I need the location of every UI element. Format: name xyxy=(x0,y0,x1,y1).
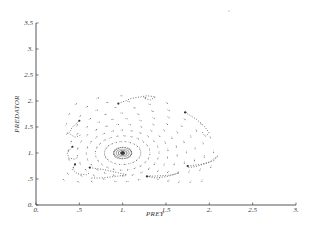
field-arrow-dot xyxy=(131,130,132,131)
field-arrow-dot xyxy=(178,171,179,172)
field-arrow-dot xyxy=(203,143,204,144)
field-arrow-dot xyxy=(204,155,205,156)
field-arrow-dot xyxy=(116,164,117,165)
equilibrium-spoke-dot xyxy=(114,153,115,154)
field-arrow-dot xyxy=(124,164,125,165)
field-arrow-dot xyxy=(168,171,169,172)
field-arrow-dot xyxy=(66,123,67,124)
field-arrow-dot xyxy=(106,158,107,159)
trajectory-traj-8 xyxy=(72,164,89,174)
field-arrow-dot xyxy=(176,131,177,132)
field-arrow-dot xyxy=(103,134,104,135)
field-arrow-dot xyxy=(122,112,123,113)
field-arrow-dot xyxy=(133,162,134,163)
field-arrow-dot xyxy=(213,152,214,153)
field-arrow-dot xyxy=(116,142,117,143)
equilibrium-spoke-dot xyxy=(130,150,131,151)
field-arrow-dot xyxy=(112,143,113,144)
field-arrow-dot xyxy=(99,144,100,145)
field-arrow-dot xyxy=(100,143,101,144)
field-arrow-dot xyxy=(121,95,122,96)
field-arrow-dot xyxy=(148,169,149,170)
equilibrium-spoke-dot xyxy=(118,156,119,157)
field-arrow-dot xyxy=(107,102,108,103)
field-arrow-dot xyxy=(210,167,211,168)
field-arrow-dot xyxy=(108,145,109,146)
field-arrow-dot xyxy=(150,104,151,105)
field-arrow-dot xyxy=(138,138,139,139)
field-arrow-dot xyxy=(183,140,184,141)
field-arrow-dot xyxy=(87,126,88,127)
trajectory-traj-3 xyxy=(188,156,218,168)
equilibrium-spoke-dot xyxy=(127,148,128,149)
field-arrow-dot xyxy=(136,160,137,161)
field-arrow-dot xyxy=(153,124,154,125)
equilibrium-point xyxy=(121,151,125,155)
field-arrow-dot xyxy=(134,107,135,108)
field-arrow-dot xyxy=(164,130,165,131)
field-arrow-dot xyxy=(116,181,117,182)
field-arrow-dot xyxy=(190,182,191,183)
field-arrow-dot xyxy=(137,138,138,139)
equilibrium-spoke-dot xyxy=(125,156,126,157)
y-tick-label: 3.5 xyxy=(23,19,33,27)
field-arrow-dot xyxy=(174,163,175,164)
field-arrow-dot xyxy=(98,161,99,162)
field-arrow-dot xyxy=(177,155,178,156)
field-arrow-dot xyxy=(87,148,88,149)
field-arrow-dot xyxy=(71,141,72,142)
field-arrow-dot xyxy=(79,116,80,117)
field-arrow-dot xyxy=(163,129,164,130)
field-arrow-dot xyxy=(96,157,97,158)
field-arrow-dot xyxy=(128,163,129,164)
equilibrium-spoke-dot xyxy=(117,157,118,158)
field-arrow-dot xyxy=(77,124,78,125)
field-arrow-dot xyxy=(184,119,185,120)
y-tick-label: 2.5 xyxy=(24,71,33,79)
equilibrium-spoke-dot xyxy=(116,149,117,150)
field-arrow-dot xyxy=(188,172,189,173)
x-tick-label: 1. xyxy=(120,206,126,214)
field-arrow-dot xyxy=(142,172,143,173)
equilibrium-spoke-dot xyxy=(122,147,123,148)
field-arrow-dot xyxy=(148,104,149,105)
field-arrow-dot xyxy=(103,141,104,142)
field-arrow-dot xyxy=(186,151,187,152)
field-arrow-dot xyxy=(120,113,121,114)
field-arrow-dot xyxy=(176,145,177,146)
field-arrow-dot xyxy=(77,149,78,150)
field-arrow-dot xyxy=(138,114,139,115)
field-arrow-dot xyxy=(139,156,140,157)
field-arrow-dot xyxy=(210,137,211,138)
equilibrium-spoke-dot xyxy=(119,157,120,158)
field-arrow-dot xyxy=(122,170,123,171)
field-arrow-dot xyxy=(128,142,129,143)
field-arrow-dot xyxy=(101,164,102,165)
field-arrow-dot xyxy=(104,153,105,154)
field-arrow-dot xyxy=(167,116,168,117)
y-tick-label: 1. xyxy=(28,149,34,157)
field-arrow-dot xyxy=(194,159,195,160)
equilibrium-spoke-dot xyxy=(128,149,129,150)
field-arrow-dot xyxy=(149,148,150,149)
field-arrow-dot xyxy=(125,164,126,165)
field-arrow-dot xyxy=(75,104,76,105)
field-arrow-dot xyxy=(98,97,99,98)
field-arrow-dot xyxy=(169,117,170,118)
field-arrow-dot xyxy=(104,133,105,134)
equilibrium-spoke-dot xyxy=(127,157,128,158)
field-arrow-dot xyxy=(65,125,66,126)
field-arrow-dot xyxy=(166,102,167,103)
field-arrow-dot xyxy=(113,175,114,176)
field-arrow-dot xyxy=(140,154,141,155)
field-arrow-dot xyxy=(167,150,168,151)
field-arrow-dot xyxy=(133,174,134,175)
equilibrium-spoke-dot xyxy=(124,147,125,148)
field-arrow-dot xyxy=(164,163,165,164)
equilibrium-spoke-dot xyxy=(122,149,123,150)
field-arrow-dot xyxy=(95,153,96,154)
field-arrow-dot xyxy=(147,135,148,136)
field-arrow-dot xyxy=(196,130,197,131)
field-arrow-dot xyxy=(104,150,105,151)
field-arrow-dot xyxy=(95,138,96,139)
